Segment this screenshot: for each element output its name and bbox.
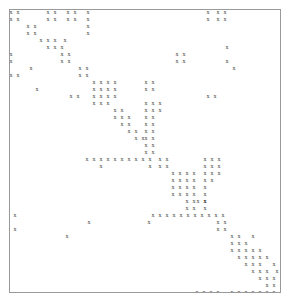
matrix-nonzero-marker: x [32,23,38,29]
matrix-nonzero-marker: x [164,212,170,218]
matrix-nonzero-marker: x [250,289,256,293]
matrix-nonzero-marker: x [170,170,176,176]
sparse-matrix-spy-figure: xxxxxxxxxxxxxxxxxxxxxxxxxxxxxxxxxxxxxxxx… [0,0,290,303]
matrix-nonzero-marker: x [184,191,190,197]
matrix-nonzero-marker: x [65,9,71,15]
matrix-nonzero-marker: x [146,219,152,225]
matrix-nonzero-marker: x [209,170,215,176]
matrix-nonzero-marker: x [229,240,235,246]
matrix-nonzero-marker: x [98,86,104,92]
matrix-nonzero-marker: x [191,184,197,190]
matrix-nonzero-marker: x [52,44,58,50]
matrix-nonzero-marker: x [98,93,104,99]
matrix-nonzero-marker: x [185,212,191,218]
matrix-nonzero-marker: x [105,86,111,92]
matrix-nonzero-marker: x [75,93,81,99]
matrix-nonzero-marker: x [184,198,190,204]
matrix-nonzero-marker: x [195,198,201,204]
matrix-nonzero-marker: x [143,142,149,148]
matrix-nonzero-marker: x [171,212,177,218]
matrix-nonzero-marker: x [150,128,156,134]
matrix-nonzero-marker: x [91,93,97,99]
matrix-nonzero-marker: x [143,79,149,85]
matrix-nonzero-marker: x [229,289,235,293]
matrix-nonzero-marker: x [143,135,149,141]
matrix-nonzero-marker: x [215,219,221,225]
matrix-nonzero-marker: x [12,212,18,218]
matrix-nonzero-marker: x [64,233,70,239]
matrix-nonzero-marker: x [59,51,65,57]
matrix-nonzero-marker: x [184,177,190,183]
matrix-nonzero-marker: x [206,212,212,218]
matrix-nonzero-marker: x [98,163,104,169]
matrix-nonzero-marker: x [143,107,149,113]
matrix-nonzero-marker: x [98,79,104,85]
matrix-nonzero-marker: x [264,275,270,281]
matrix-nonzero-marker: x [112,79,118,85]
matrix-nonzero-marker: x [84,72,90,78]
matrix-nonzero-marker: x [236,289,242,293]
matrix-nonzero-marker: x [9,58,14,64]
matrix-nonzero-marker: x [202,170,208,176]
matrix-nonzero-marker: x [143,149,149,155]
matrix-nonzero-marker: x [9,72,14,78]
matrix-nonzero-marker: x [202,163,208,169]
matrix-nonzero-marker: x [224,58,230,64]
matrix-nonzero-marker: x [181,58,187,64]
matrix-nonzero-marker: x [191,191,197,197]
matrix-nonzero-marker: x [45,44,51,50]
matrix-nonzero-marker: x [143,100,149,106]
matrix-nonzero-marker: x [184,170,190,176]
matrix-nonzero-marker: x [9,16,14,22]
matrix-nonzero-marker: x [28,65,34,71]
matrix-nonzero-marker: x [216,170,222,176]
matrix-nonzero-marker: x [25,30,31,36]
matrix-nonzero-marker: x [38,37,44,43]
matrix-nonzero-marker: x [215,226,221,232]
matrix-nonzero-marker: x [212,93,218,99]
matrix-nonzero-marker: x [220,212,226,218]
matrix-nonzero-marker: x [126,121,132,127]
matrix-nonzero-marker: x [150,142,156,148]
matrix-nonzero-marker: x [236,254,242,260]
matrix-nonzero-marker: x [157,107,163,113]
matrix-nonzero-marker: x [66,58,72,64]
matrix-nonzero-marker: x [52,16,58,22]
matrix-nonzero-marker: x [164,156,170,162]
matrix-nonzero-marker: x [215,16,221,22]
matrix-nonzero-marker: x [208,289,214,293]
matrix-nonzero-marker: x [236,247,242,253]
matrix-nonzero-marker: x [174,51,180,57]
matrix-nonzero-marker: x [250,233,256,239]
matrix-nonzero-marker: x [112,86,118,92]
matrix-nonzero-marker: x [126,114,132,120]
matrix-nonzero-marker: x [177,170,183,176]
matrix-nonzero-marker: x [98,156,104,162]
matrix-nonzero-marker: x [32,30,38,36]
matrix-nonzero-marker: x [250,261,256,267]
matrix-nonzero-marker: x [85,30,91,36]
matrix-nonzero-marker: x [150,107,156,113]
matrix-nonzero-marker: x [271,261,277,267]
matrix-nonzero-marker: x [91,79,97,85]
matrix-nonzero-marker: x [215,9,221,15]
matrix-nonzero-marker: x [91,86,97,92]
matrix-nonzero-marker: x [85,16,91,22]
matrix-nonzero-marker: x [112,93,118,99]
matrix-nonzero-marker: x [209,163,215,169]
matrix-nonzero-marker: x [213,212,219,218]
matrix-nonzero-marker: x [9,9,14,15]
matrix-nonzero-marker: x [215,289,221,293]
matrix-nonzero-marker: x [257,275,263,281]
matrix-nonzero-marker: x [184,205,190,211]
matrix-nonzero-marker: x [59,44,65,50]
matrix-nonzero-marker: x [150,79,156,85]
matrix-nonzero-marker: x [216,156,222,162]
matrix-nonzero-marker: x [84,156,90,162]
matrix-nonzero-marker: x [202,205,208,211]
matrix-nonzero-marker: x [77,72,83,78]
matrix-nonzero-marker: x [264,289,270,293]
matrix-nonzero-marker: x [91,100,97,106]
matrix-nonzero-marker: x [264,282,270,288]
matrix-nonzero-marker: x [105,93,111,99]
